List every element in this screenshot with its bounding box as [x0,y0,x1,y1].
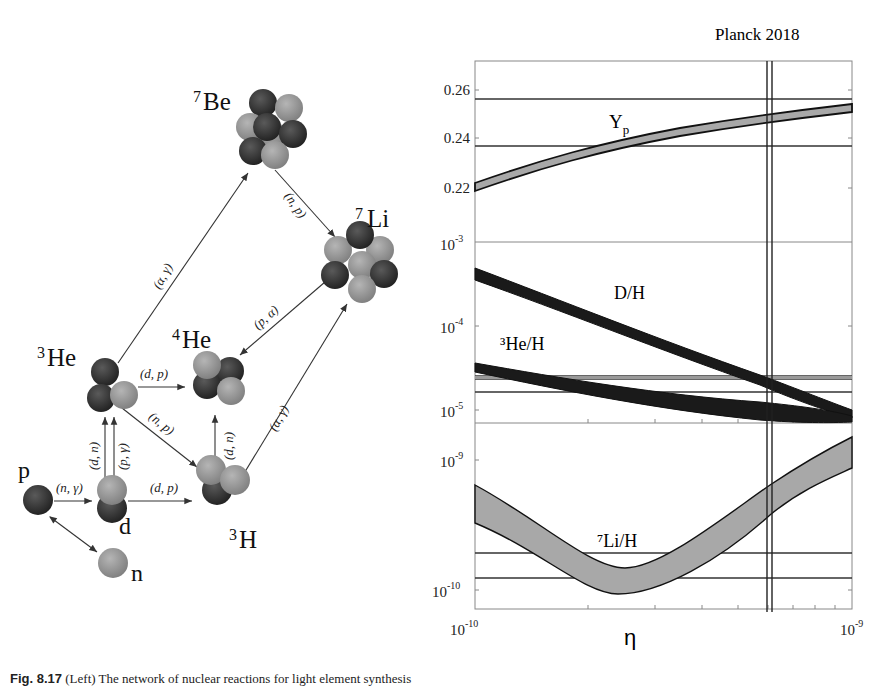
label-he4: 4He [172,326,211,353]
svg-text:0.24: 0.24 [444,130,471,146]
figure: (n, γ) (d, n) (p, γ) (d, p) (d, p) (n, p… [0,0,893,687]
svg-text:0.26: 0.26 [444,82,471,98]
label-d: d [119,513,131,539]
nucleus-proton [23,485,53,515]
nucleus-lithium-7 [321,221,398,303]
nucleus-helium-4 [193,351,245,405]
nucleus-beryllium-7 [236,89,307,169]
label-li7h: ⁷Li/H [597,531,637,551]
svg-text:10-10: 10-10 [432,580,460,600]
label-d-n-h3: (d, n) [221,432,236,460]
yp-band [475,104,852,191]
label-n-p-be7-li7: (n, p) [282,189,310,221]
abundance-plot: 0.26 0.24 0.22 10-3 10-4 10-5 10-9 10-10… [432,61,863,650]
planck-eta-lines [767,61,772,612]
y-tick-labels: 0.26 0.24 0.22 [444,82,471,196]
label-d-p-top: (d, p) [140,366,168,381]
svg-text:10-9: 10-9 [840,618,863,638]
label-yp: Yp [609,111,629,137]
label-he3h: ³He/H [500,334,544,354]
nucleus-tritium [196,455,250,505]
plot-title: Planck 2018 [715,25,800,44]
label-he3: 3He [37,344,76,371]
nucleus-helium-3 [87,358,138,412]
label-p: p [18,457,30,483]
x-axis-label: η [624,625,636,650]
label-p-alpha: (p, α) [250,302,281,332]
li7-band [475,437,852,594]
svg-text:0.22: 0.22 [444,180,470,196]
label-n: n [131,560,143,586]
label-n-p-diag: (n, p) [146,409,177,438]
label-dh: D/H [614,283,645,303]
caption-text: (Left) The network of nuclear reactions … [65,671,411,686]
label-p-gamma-vertical: (p, γ) [115,443,130,470]
svg-text:10-10: 10-10 [450,618,478,638]
figure-number: Fig. 8.17 [10,671,62,686]
label-alpha-gamma-be7: (α, γ) [149,260,175,291]
label-d-n-vertical: (d, n) [86,442,101,470]
svg-text:10-9: 10-9 [440,450,463,470]
svg-text:10-3: 10-3 [440,233,463,253]
figure-caption: Fig. 8.17 (Left) The network of nuclear … [10,671,411,687]
label-be7: 7Be [193,88,231,115]
label-d-p-bottom: (d, p) [150,480,178,495]
arrow-p-n [50,517,97,552]
label-h3: 3H [229,526,257,553]
arrow-h3-to-li7 [240,304,347,480]
nucleus-labels: p n d 3He 3H 4He 7Be 7Li [18,88,389,586]
label-alpha-gamma-li7: (α, γ) [265,402,291,433]
svg-text:10-4: 10-4 [440,316,463,336]
svg-text:10-5: 10-5 [440,400,463,420]
label-n-gamma: (n, γ) [56,480,83,495]
nucleus-neutron [98,548,128,578]
